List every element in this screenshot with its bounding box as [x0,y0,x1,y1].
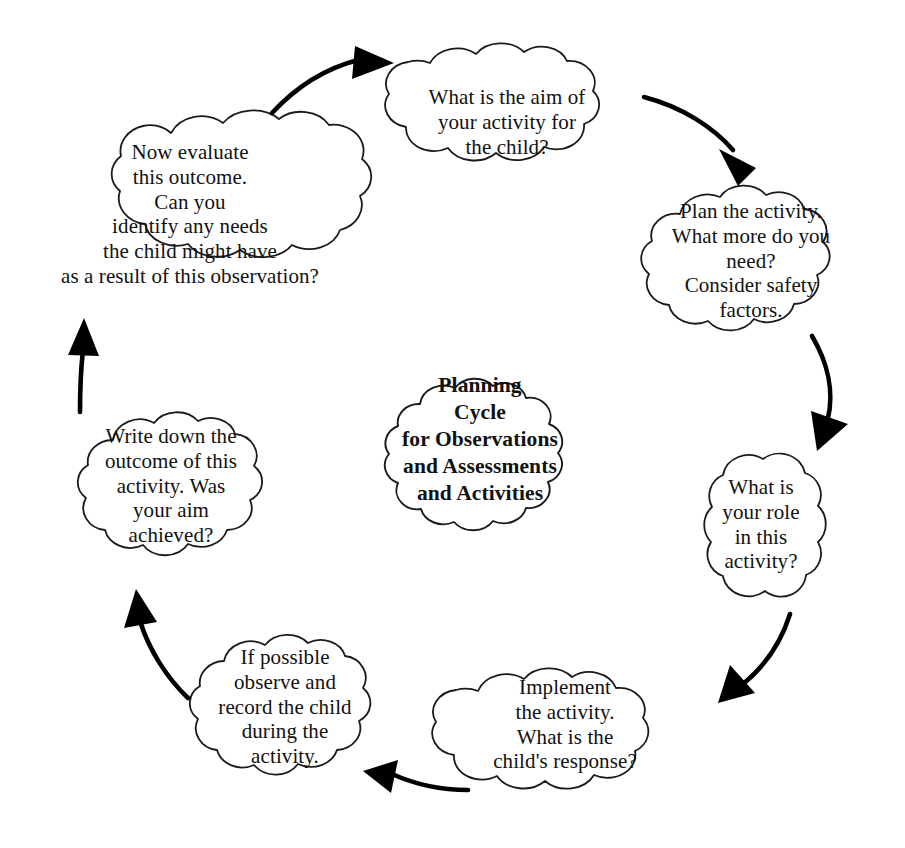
arrow-observe-to-write [124,589,188,698]
arrow-plan-to-role [811,336,848,451]
cloud-shape-planning-cycle-center [385,379,562,531]
cycle-graphics [0,0,905,848]
cloud-shape-plan-the-activity [641,186,829,331]
arrow-write-to-evaluate [68,318,99,412]
cloud-shape-implement-the-activity [432,668,648,788]
planning-cycle-diagram: Now evaluate this outcome. Can you ident… [0,0,905,848]
arrow-role-to-implement [718,614,790,703]
cloud-shape-evaluate-outcome [112,110,372,257]
arrow-aim-to-plan [644,97,756,186]
cloud-shape-aim-of-activity [385,43,599,160]
cloud-shape-observe-and-record [190,635,371,775]
cloud-shape-your-role [704,454,826,597]
cloud-shape-write-down-outcome [78,412,262,555]
arrow-implement-to-observe [363,760,468,793]
arrow-evaluate-to-aim [272,46,394,113]
